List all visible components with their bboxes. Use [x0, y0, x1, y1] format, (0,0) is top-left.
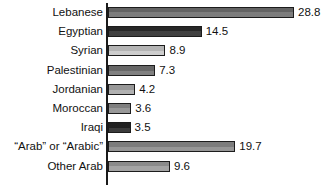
bar	[108, 26, 202, 37]
bar-fill	[109, 104, 130, 113]
chart-row: Egyptian 14.5	[0, 25, 323, 44]
chart-row: Jordanian 4.2	[0, 83, 323, 102]
value-label: 14.5	[206, 25, 228, 38]
bar-chart: Lebanese 28.8 Egyptian 14.5 Syrian 8.9 P…	[0, 0, 323, 193]
value-label: 3.5	[135, 121, 151, 134]
bar-fill	[109, 27, 201, 36]
bar	[108, 122, 131, 133]
bar	[108, 161, 170, 172]
chart-row: Syrian 8.9	[0, 44, 323, 63]
value-label: 9.6	[174, 160, 190, 173]
category-label: “Arab” or “Arabic”	[0, 140, 103, 153]
value-label: 8.9	[169, 44, 185, 57]
bar	[108, 84, 135, 95]
bar-fill	[109, 66, 154, 75]
category-label: Other Arab	[0, 160, 103, 173]
bar-fill	[109, 8, 293, 17]
bar-fill	[109, 162, 169, 171]
chart-row: Moroccan 3.6	[0, 102, 323, 121]
bar	[108, 141, 235, 152]
chart-row: Iraqi 3.5	[0, 121, 323, 140]
value-label: 3.6	[135, 102, 151, 115]
category-label: Palestinian	[0, 64, 103, 77]
category-label: Jordanian	[0, 83, 103, 96]
bar	[108, 7, 294, 18]
bar-fill	[109, 142, 234, 151]
value-label: 19.7	[239, 140, 261, 153]
category-label: Syrian	[0, 44, 103, 57]
value-label: 7.3	[159, 64, 175, 77]
chart-row: “Arab” or “Arabic” 19.7	[0, 140, 323, 159]
bar-fill	[109, 123, 130, 132]
value-label: 28.8	[298, 6, 320, 19]
category-label: Lebanese	[0, 6, 103, 19]
bar-fill	[109, 46, 164, 55]
category-label: Egyptian	[0, 25, 103, 38]
bar-fill	[109, 85, 134, 94]
chart-row: Lebanese 28.8	[0, 6, 323, 25]
chart-row: Other Arab 9.6	[0, 160, 323, 179]
chart-row: Palestinian 7.3	[0, 64, 323, 83]
category-label: Moroccan	[0, 102, 103, 115]
category-label: Iraqi	[0, 121, 103, 134]
bar	[108, 65, 155, 76]
bar	[108, 103, 131, 114]
value-label: 4.2	[139, 83, 155, 96]
bar	[108, 45, 165, 56]
